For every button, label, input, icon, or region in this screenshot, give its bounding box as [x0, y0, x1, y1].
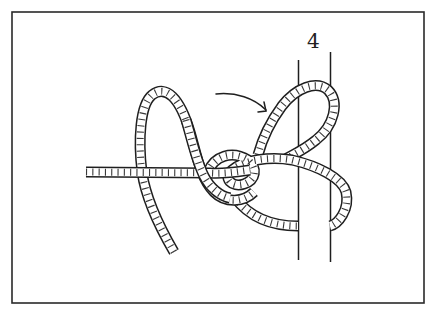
direction-arrow: [216, 94, 266, 112]
step-number: 4: [307, 29, 320, 53]
knot-diagram: 4: [0, 0, 436, 315]
rope-knot-turn: [208, 155, 347, 226]
rope-standing-part: [86, 170, 250, 173]
rope-right-loop: [258, 86, 334, 160]
